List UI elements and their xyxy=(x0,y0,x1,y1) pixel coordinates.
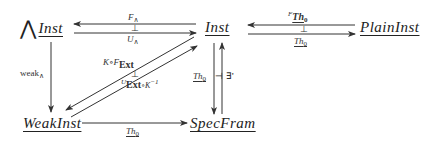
label-weak-wedge: weak∧ xyxy=(20,69,44,80)
label-sub: ∧ xyxy=(39,72,44,80)
label-text: Th xyxy=(292,11,304,22)
bigwedge-symbol: ⋀ xyxy=(20,18,37,38)
node-label: Inst xyxy=(39,20,64,36)
label-text: Th xyxy=(126,126,136,136)
adjoint-symbol-top-right: ⊥ xyxy=(300,25,308,34)
label-text: Th xyxy=(193,71,203,81)
label-sub: ∧ xyxy=(134,38,139,46)
label-exists-prime: ∃' xyxy=(226,72,234,81)
label-post-sup: −1 xyxy=(150,78,158,86)
label-u-wedge: U∧ xyxy=(127,35,139,46)
label-bold: Ext xyxy=(126,79,141,90)
label-text: weak xyxy=(20,68,39,78)
label-k-f-ext: K∘FExt xyxy=(103,58,134,70)
label-th0-down: Th0 xyxy=(193,72,206,83)
label-sub: 0 xyxy=(136,130,140,138)
node-weak-inst: WeakInst xyxy=(23,116,81,131)
label-u-ext-k-inv: UExt∘K−1 xyxy=(121,79,159,90)
node-label: WeakInst xyxy=(23,115,81,131)
node-spec-fram: SpecFram xyxy=(190,116,256,131)
label-text: K∘F xyxy=(103,57,119,67)
label-sub: 0 xyxy=(304,40,308,48)
adjoint-symbol-vertical: ⊣ xyxy=(215,72,223,81)
label-sub: 0 xyxy=(304,16,308,24)
adjoint-symbol-diagonal: ⊥ xyxy=(131,70,139,79)
label-f-th0: FTh0 xyxy=(288,11,307,24)
label-sub: 0 xyxy=(203,75,207,83)
arrow-k-f-ext xyxy=(66,37,194,110)
node-inst: Inst xyxy=(205,20,230,35)
label-post: ∘K xyxy=(141,81,150,90)
label-th0-right: Th0 xyxy=(294,37,307,48)
node-plain-inst: PlainInst xyxy=(360,20,420,35)
adjoint-symbol-top-left: ⊥ xyxy=(131,24,139,33)
node-label: Inst xyxy=(205,19,230,35)
label-th0-bottom: Th0 xyxy=(126,127,139,138)
label-text: ∃' xyxy=(226,71,234,81)
node-bigwedge-inst: ⋀Inst xyxy=(20,18,63,38)
label-text: Th xyxy=(294,36,304,46)
node-label: PlainInst xyxy=(360,19,420,35)
node-label: SpecFram xyxy=(190,115,256,131)
